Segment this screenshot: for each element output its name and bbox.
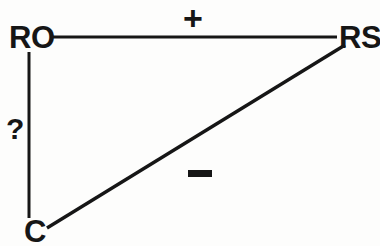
signed-relations-diagram: RO RS C + ? bbox=[0, 0, 380, 246]
edge-sign-question: ? bbox=[6, 114, 24, 144]
node-label-c: C bbox=[24, 216, 46, 246]
node-label-ro: RO bbox=[9, 22, 55, 53]
edge-sign-minus bbox=[188, 170, 212, 177]
edge-sign-plus: + bbox=[183, 1, 203, 35]
node-label-rs: RS bbox=[339, 22, 380, 53]
edge-c-rs bbox=[47, 45, 345, 228]
